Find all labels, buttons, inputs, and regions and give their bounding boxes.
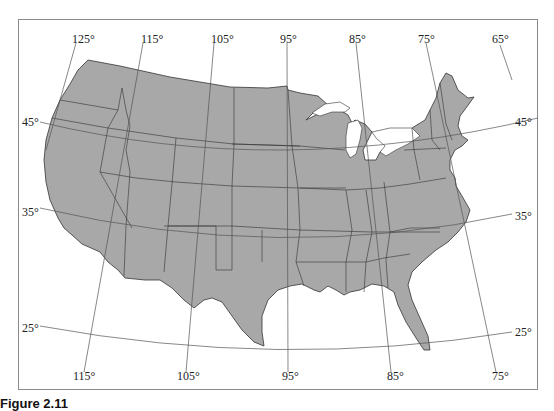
lat-label-left-45: 45° (22, 116, 39, 128)
lon-label-top-95: 95° (280, 33, 297, 45)
lon-label-bottom-115: 115° (73, 370, 95, 382)
lon-label-top-105: 105° (211, 33, 234, 45)
lon-label-bottom-105: 105° (177, 370, 200, 382)
lon-label-bottom-95: 95° (282, 370, 299, 382)
lat-label-left-35: 35° (22, 206, 39, 218)
lon-label-top-75: 75° (418, 33, 435, 45)
lon-label-top-115: 115° (141, 33, 163, 45)
lat-label-left-25: 25° (22, 322, 39, 334)
lon-label-top-85: 85° (349, 33, 366, 45)
lat-label-right-35: 35° (515, 210, 532, 222)
lon-label-top-65: 65° (492, 33, 509, 45)
lon-label-bottom-85: 85° (387, 370, 404, 382)
figure-caption: Figure 2.11 (0, 396, 68, 411)
lon-label-bottom-75: 75° (492, 370, 509, 382)
lat-label-right-25: 25° (515, 326, 532, 338)
lat-25 (40, 326, 512, 350)
lon-label-top-125: 125° (72, 33, 95, 45)
lat-label-right-45: 45° (515, 116, 532, 128)
us-land (44, 60, 474, 350)
lon-65 (500, 45, 512, 80)
